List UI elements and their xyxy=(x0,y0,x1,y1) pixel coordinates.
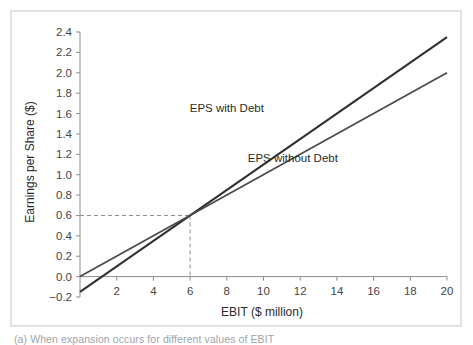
x-tick-label: 20 xyxy=(441,285,454,297)
y-tick-label: 1.4 xyxy=(56,128,73,140)
y-tick-label: 1.2 xyxy=(56,148,72,160)
x-tick-label: 2 xyxy=(113,285,119,297)
figure-frame: −0.20.00.20.40.60.81.01.21.41.61.82.02.2… xyxy=(10,10,462,327)
x-tick-label: 6 xyxy=(187,285,193,297)
y-tick-label: 0.6 xyxy=(56,209,72,221)
y-tick-label: 1.0 xyxy=(56,169,72,181)
y-axis: −0.20.00.20.40.60.81.01.21.41.61.82.02.2… xyxy=(49,26,80,303)
y-tick-label: 0.4 xyxy=(56,230,73,242)
y-tick-label: 0.0 xyxy=(56,271,72,283)
series-line-eps-with-debt xyxy=(80,37,447,292)
figure-caption-text: (a) When expansion occurs for different … xyxy=(14,334,454,345)
x-axis-title: EBIT ($ million) xyxy=(221,305,303,319)
x-tick-label: 10 xyxy=(257,285,270,297)
y-tick-label: 2.4 xyxy=(56,26,73,38)
series-label-eps-with-debt: EPS with Debt xyxy=(190,102,265,114)
x-tick-label: 12 xyxy=(294,285,307,297)
series-lines xyxy=(80,37,447,292)
y-tick-label: 0.2 xyxy=(56,250,72,262)
series-label-eps-without-debt: EPS without Debt xyxy=(248,152,339,164)
y-tick-label: −0.2 xyxy=(49,291,72,303)
y-axis-title: Earnings per Share ($) xyxy=(23,101,37,222)
x-tick-label: 8 xyxy=(224,285,230,297)
figure-caption: (a) When expansion occurs for different … xyxy=(14,334,454,345)
eps-ebit-break-even-chart: −0.20.00.20.40.60.81.01.21.41.61.82.02.2… xyxy=(12,12,464,329)
x-tick-label: 14 xyxy=(331,285,344,297)
y-tick-label: 1.6 xyxy=(56,108,72,120)
y-tick-label: 0.8 xyxy=(56,189,72,201)
series-labels: EPS with DebtEPS without Debt xyxy=(190,102,339,165)
x-tick-label: 16 xyxy=(367,285,380,297)
y-tick-label: 2.0 xyxy=(56,67,72,79)
x-axis: 2468101214161820 xyxy=(80,277,453,297)
x-tick-label: 18 xyxy=(404,285,417,297)
chart-canvas: −0.20.00.20.40.60.81.01.21.41.61.82.02.2… xyxy=(12,12,464,329)
y-tick-label: 2.2 xyxy=(56,46,72,58)
x-tick-label: 4 xyxy=(150,285,157,297)
y-tick-label: 1.8 xyxy=(56,87,72,99)
